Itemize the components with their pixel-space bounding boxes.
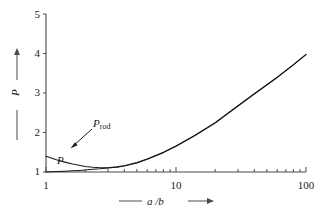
- x-axis-title-text: a /b: [147, 195, 164, 207]
- p-rod-annotation-arrow: [71, 129, 93, 149]
- y-tick-label-1: 1: [26, 166, 40, 177]
- x-tick-label-10: 10: [161, 180, 191, 191]
- annotation-p-rod: Prod: [93, 118, 111, 131]
- y-tick-label-4: 4: [26, 48, 40, 59]
- x-tick-label-100: 100: [291, 180, 321, 191]
- annotation-p: P: [57, 155, 64, 166]
- x-axis-title: a /b: [119, 196, 164, 207]
- y-tick-label-5: 5: [26, 9, 40, 20]
- curve-p: [46, 55, 306, 172]
- annotation-p-rod-subscript: rod: [100, 122, 111, 131]
- y-tick-label-3: 3: [26, 87, 40, 98]
- figure-chart-p-vs-a-over-b: 5 4 3 2 1 1 10 100 P a /b Prod P: [0, 0, 328, 219]
- y-axis-title: P: [10, 89, 21, 96]
- x-axis-ticks: [46, 167, 306, 172]
- y-axis-title-arrow-icon: [14, 48, 20, 80]
- y-tick-label-2: 2: [26, 127, 40, 138]
- x-tick-label-1: 1: [31, 180, 61, 191]
- x-axis-title-arrow-icon: [188, 198, 214, 204]
- curve-p-rod: [46, 54, 306, 167]
- annotation-p-rod-main: P: [93, 117, 100, 129]
